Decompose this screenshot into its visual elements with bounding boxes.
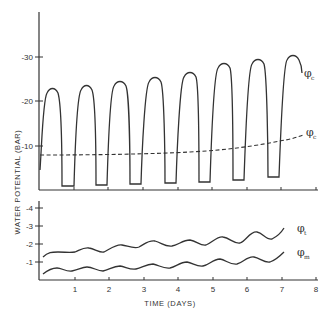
xtick-label: 7	[280, 285, 285, 294]
xtick-label: 5	[211, 285, 216, 294]
series-phi-t	[43, 228, 284, 257]
top-panel	[35, 12, 318, 190]
legend-phi-t: φ t	[297, 222, 307, 236]
top-ytick-label: -20	[21, 97, 33, 106]
xtick-label: 2	[107, 285, 112, 294]
svg-text:m: m	[304, 253, 310, 260]
legend-phi-c-solid: φ c	[304, 67, 315, 81]
svg-text:c: c	[311, 74, 315, 81]
bottom-ytick-label: -2	[26, 240, 34, 249]
y-axis-title: WATER POTENTIAL (BAR)	[13, 130, 22, 235]
top-ytick-label: -30	[21, 53, 33, 62]
xtick-label: 8	[314, 285, 319, 294]
legend-phi-m: φ m	[297, 246, 310, 260]
xtick-label: 3	[142, 285, 147, 294]
water-potential-chart: -30 -20 -10 φ c φ c -4 -3 -2 -1 1 2	[0, 0, 330, 311]
xtick-label: 6	[245, 285, 250, 294]
svg-text:c: c	[313, 133, 317, 140]
bottom-ytick-label: -1	[26, 258, 34, 267]
x-axis-title: TIME (DAYS)	[144, 299, 195, 308]
series-phi-m	[43, 252, 284, 274]
legend-phi-c-dashed: φ c	[306, 126, 317, 140]
bottom-ytick-label: -4	[26, 204, 34, 213]
bottom-ytick-label: -3	[26, 222, 34, 231]
xtick-label: 4	[176, 285, 181, 294]
svg-text:t: t	[304, 229, 307, 236]
series-phi-c-solid	[40, 56, 302, 187]
series-phi-c-dashed	[40, 135, 303, 155]
bottom-panel	[35, 201, 318, 280]
xtick-label: 1	[73, 285, 78, 294]
top-ytick-label: -10	[21, 142, 33, 151]
